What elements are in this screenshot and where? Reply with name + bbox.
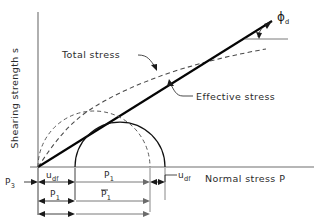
overall-p1-arrowhead-end <box>68 211 75 217</box>
udf-left-label: udf <box>46 170 59 183</box>
svg-text:P1: P1 <box>101 189 111 202</box>
total-stress-curve <box>38 49 266 167</box>
udf-right-label: udf <box>178 170 191 183</box>
phi-angle-arrowhead <box>256 32 262 39</box>
x-axis-label: Normal stress P <box>205 173 285 184</box>
effective-stress-mohr-circle <box>75 122 165 167</box>
effective-stress-leader <box>170 83 193 96</box>
p3-arrowhead <box>31 179 38 185</box>
p1-bar-label: P1 <box>101 189 111 202</box>
p1-lower-label: P1 <box>50 189 60 202</box>
overall-p1bar-arrowhead-end <box>143 211 150 217</box>
shear-strength-diagram: ϕd Total stress Effective stress Normal … <box>0 0 319 224</box>
p1-mid-label: P1 <box>104 170 114 183</box>
udf-right-arrowhead-start <box>150 179 157 185</box>
udf-right-leader <box>165 175 177 182</box>
diagram-canvas: ϕd Total stress Effective stress Normal … <box>0 0 319 224</box>
friction-angle-label: ϕd <box>277 10 289 26</box>
effective-stress-label: Effective stress <box>196 91 275 102</box>
total-stress-label: Total stress <box>61 49 120 60</box>
p1-mid-arrowhead-end <box>143 179 150 185</box>
p1-bar-arrowhead-end <box>143 198 150 204</box>
overall-p1-arrowhead-start <box>38 211 45 217</box>
p1-lower-arrowhead-start <box>38 198 45 204</box>
udf-right-arrowhead-end <box>158 179 165 185</box>
y-axis-label: Shearing strength s <box>9 48 20 149</box>
udf-left-arrowhead-start <box>38 179 45 185</box>
p3-label: P3 <box>5 177 15 190</box>
envelope-arrowhead <box>264 21 272 29</box>
axis-group <box>30 12 314 167</box>
p1-lower-arrowhead-end <box>68 198 75 204</box>
total-stress-mohr-circle <box>38 111 150 167</box>
udf-left-arrowhead-end <box>68 179 75 185</box>
total-stress-leader-arrowhead <box>151 64 157 71</box>
